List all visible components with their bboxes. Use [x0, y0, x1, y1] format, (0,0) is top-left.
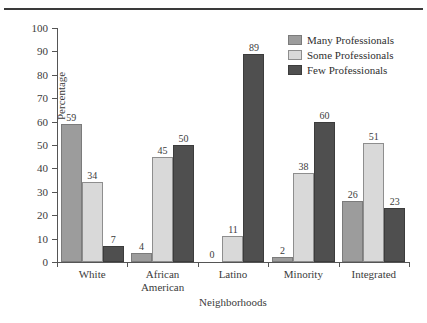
legend-swatch-icon [288, 65, 302, 75]
x-axis-line [57, 262, 409, 263]
y-axis-tick-label: 70 [20, 91, 48, 105]
legend-item[interactable]: Few Professionals [288, 63, 394, 77]
legend-item[interactable]: Some Professionals [288, 48, 394, 62]
chart-page: 0102030405060708090100 Percentage Neighb… [0, 0, 427, 323]
bar-value-label: 60 [319, 110, 329, 122]
bar[interactable]: 51 [363, 143, 384, 262]
bar[interactable]: 7 [103, 246, 124, 262]
bar[interactable]: 23 [384, 208, 405, 262]
legend-swatch-icon [288, 50, 302, 60]
legend-item[interactable]: Many Professionals [288, 33, 394, 47]
bar[interactable]: 59 [61, 124, 82, 262]
y-axis-tick-label: 0 [20, 255, 48, 269]
chart-legend: Many ProfessionalsSome ProfessionalsFew … [288, 33, 394, 78]
x-axis-title: Neighborhoods [57, 296, 409, 308]
bar-value-label: 23 [390, 196, 400, 208]
bar-group: 44550AfricanAmerican [127, 28, 197, 262]
x-axis-tick [409, 262, 410, 267]
bar-value-label: 4 [139, 241, 144, 253]
y-axis-tick-label: 20 [20, 208, 48, 222]
bar-group: 01189Latino [198, 28, 268, 262]
bar[interactable]: 34 [82, 182, 103, 262]
legend-label: Few Professionals [307, 64, 387, 77]
legend-label: Some Professionals [307, 49, 393, 62]
bar[interactable]: 11 [222, 236, 243, 262]
bar-value-label: 26 [348, 189, 358, 201]
bar-value-label: 11 [228, 224, 238, 236]
y-axis-tick-label: 40 [20, 161, 48, 175]
bar-value-label: 38 [298, 161, 308, 173]
y-axis-tick-label: 50 [20, 138, 48, 152]
bar-value-label: 51 [369, 131, 379, 143]
y-axis-tick-label: 100 [20, 21, 48, 35]
bar-value-label: 7 [111, 234, 116, 246]
x-axis-tick [127, 262, 128, 267]
bar-value-label: 89 [249, 42, 259, 54]
bar[interactable]: 2 [272, 257, 293, 262]
x-axis-category-label: Integrated [329, 268, 419, 281]
y-axis-tick-label: 80 [20, 68, 48, 82]
y-axis-tick-label: 10 [20, 232, 48, 246]
bar[interactable]: 60 [314, 122, 335, 262]
bar-group: 59347White [57, 28, 127, 262]
x-axis-tick [198, 262, 199, 267]
x-axis-tick [339, 262, 340, 267]
bar[interactable]: 89 [243, 54, 264, 262]
y-axis-tick-label: 60 [20, 115, 48, 129]
top-horizontal-rule [4, 8, 423, 10]
bar-value-label: 59 [66, 112, 76, 124]
bar-value-label: 50 [179, 133, 189, 145]
x-axis-tick [268, 262, 269, 267]
x-axis-tick [57, 262, 58, 267]
bar[interactable]: 50 [173, 145, 194, 262]
bar-value-label: 34 [87, 170, 97, 182]
bar[interactable]: 45 [152, 157, 173, 262]
bar-value-label: 0 [209, 249, 214, 261]
bar[interactable]: 38 [293, 173, 314, 262]
bar-value-label: 45 [158, 145, 168, 157]
legend-swatch-icon [288, 35, 302, 45]
bar-value-label: 2 [280, 245, 285, 257]
legend-label: Many Professionals [307, 34, 394, 47]
y-axis-tick-label: 90 [20, 44, 48, 58]
bar[interactable]: 26 [342, 201, 363, 262]
bar[interactable]: 4 [131, 253, 152, 262]
y-axis-tick-label: 30 [20, 185, 48, 199]
